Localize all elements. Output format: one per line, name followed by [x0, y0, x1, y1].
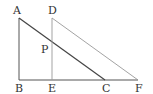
label-f: F	[135, 82, 143, 94]
geometry-diagram: A D P B E C F	[0, 0, 153, 94]
segment-df	[52, 18, 138, 80]
label-p: P	[41, 43, 49, 56]
label-a: A	[12, 4, 22, 17]
segment-ac	[19, 18, 105, 80]
label-d: D	[48, 4, 57, 17]
label-e: E	[48, 82, 56, 94]
label-b: B	[15, 82, 23, 94]
label-c: C	[102, 82, 110, 94]
